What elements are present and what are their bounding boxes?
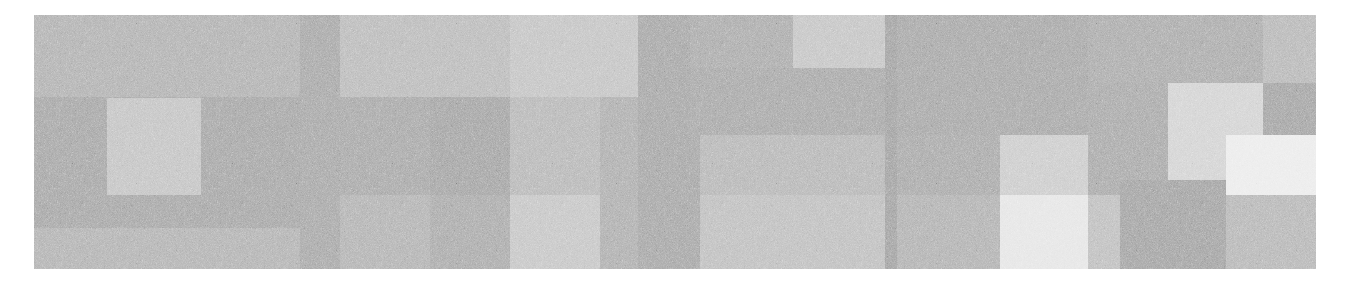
gray-block (1088, 83, 1168, 195)
gray-block (510, 97, 600, 195)
gray-block (107, 98, 201, 195)
gray-block (510, 195, 600, 269)
gray-block (510, 15, 638, 97)
gray-block (34, 15, 340, 97)
gray-block (1226, 135, 1316, 195)
gray-block (700, 195, 885, 269)
gray-block (1226, 195, 1316, 269)
gray-block (1000, 135, 1088, 195)
gray-block (34, 228, 340, 269)
gray-block (430, 97, 510, 195)
gray-block (1263, 15, 1316, 83)
gray-block (885, 15, 897, 269)
gray-block (300, 15, 340, 269)
gray-block (690, 68, 885, 135)
gray-block (1088, 195, 1120, 269)
abstract-mosaic-image (34, 15, 1316, 269)
gray-block (1088, 15, 1263, 83)
gray-block (340, 15, 510, 97)
gray-block (793, 15, 885, 68)
gray-block (700, 135, 885, 195)
gray-block (897, 15, 1088, 135)
gray-block (897, 195, 1000, 269)
gray-block (430, 195, 510, 269)
gray-block (1120, 180, 1226, 269)
gray-block (340, 195, 430, 269)
gray-block (1263, 83, 1316, 135)
gray-block (1000, 195, 1088, 269)
gray-block (897, 135, 1000, 195)
gray-block (600, 97, 638, 269)
gray-block (690, 15, 793, 68)
